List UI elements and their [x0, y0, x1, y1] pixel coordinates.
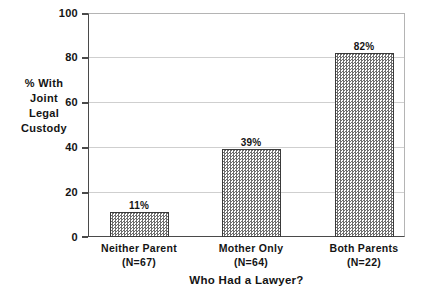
x-axis-title: Who Had a Lawyer? [88, 274, 405, 286]
y-tick-label-20: 20 [38, 186, 78, 198]
category-label-neither-parent-text: Neither Parent [101, 242, 177, 254]
bar-both-parents [335, 53, 394, 237]
y-axis-title-line-3: Legal [6, 106, 82, 121]
category-n-mother-only: (N=64) [191, 255, 311, 269]
bar-value-label-both-parents: 82% [334, 41, 394, 52]
y-axis-title-line-4: Custody [6, 121, 82, 136]
bar-chart-figure: % With Joint Legal Custody 100 80 60 40 … [0, 0, 435, 299]
y-axis-title-line-1: % With [6, 76, 82, 91]
category-label-mother-only: Mother Only (N=64) [191, 241, 311, 269]
bar-neither-parent [110, 212, 169, 237]
category-label-both-parents: Both Parents (N=22) [304, 241, 424, 269]
category-label-neither-parent: Neither Parent (N=67) [79, 241, 199, 269]
y-tick-label-0: 0 [38, 231, 78, 243]
bar-value-label-neither-parent: 11% [109, 200, 169, 211]
bar-mother-only [222, 149, 281, 237]
category-n-neither-parent: (N=67) [79, 255, 199, 269]
category-label-mother-only-text: Mother Only [219, 242, 284, 254]
y-tick-label-80: 80 [38, 51, 78, 63]
category-n-both-parents: (N=22) [304, 255, 424, 269]
y-tick-label-40: 40 [38, 141, 78, 153]
y-tick-label-100: 100 [38, 7, 78, 19]
bar-value-label-mother-only: 39% [221, 137, 281, 148]
category-label-both-parents-text: Both Parents [330, 242, 399, 254]
y-tick-label-60: 60 [38, 96, 78, 108]
